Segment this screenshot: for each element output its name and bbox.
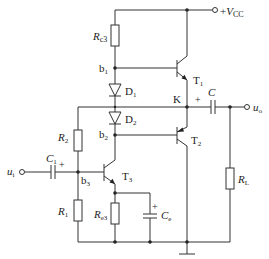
circuit-schematic: +VCC Rc3 b1 D1 D2 b2	[0, 0, 269, 259]
node-b3: b3	[76, 170, 104, 188]
capacitor-c1: + C1	[25, 152, 78, 179]
input-terminal	[20, 170, 25, 175]
re3-label: Re3	[93, 208, 108, 222]
k-label: K	[173, 93, 181, 105]
node-b2: b2	[99, 128, 177, 142]
rl-label: RL	[237, 173, 249, 187]
resistor-r1: R1	[57, 200, 82, 242]
node-b1: b1	[99, 62, 177, 76]
ground-rail	[78, 240, 230, 254]
transistor-t3: T3	[104, 160, 133, 203]
t1-label: T1	[193, 74, 204, 88]
t2-label: T2	[191, 134, 202, 148]
ce-plus: +	[152, 201, 158, 212]
vcc-terminal	[213, 8, 218, 13]
transistor-t2: T2	[177, 107, 202, 242]
t3-label: T3	[122, 170, 133, 184]
r2-label: R2	[57, 131, 69, 145]
supply-rail: +VCC	[115, 5, 244, 25]
c1-plus: +	[59, 159, 65, 170]
capacitor-ce: + Ce	[143, 193, 171, 242]
d1-label: D1	[125, 85, 137, 99]
resistor-rl: RL	[226, 107, 249, 242]
node-k: K	[173, 93, 189, 109]
ce-label: Ce	[161, 209, 171, 223]
diode-d1: D1	[109, 84, 137, 112]
b1-label: b1	[99, 62, 109, 76]
d2-label: D2	[125, 113, 137, 127]
output-terminal	[245, 105, 250, 110]
transistor-t1: T1	[177, 10, 204, 107]
b3-label: b3	[81, 174, 91, 188]
input-label: ui	[7, 165, 15, 179]
c-plus: +	[195, 94, 201, 105]
vcc-label: +VCC	[220, 5, 244, 19]
resistor-re3: Re3	[93, 203, 119, 242]
rc3-label: Rc3	[92, 30, 107, 44]
b2-label: b2	[99, 128, 109, 142]
diode-d2: D2	[109, 112, 137, 160]
c-label: C	[208, 86, 216, 98]
capacitor-c: + C	[187, 86, 244, 114]
r1-label: R1	[57, 205, 69, 219]
c1-label: C1	[46, 152, 57, 166]
resistor-r2: R2	[57, 107, 82, 200]
output-label: uo	[253, 101, 263, 115]
